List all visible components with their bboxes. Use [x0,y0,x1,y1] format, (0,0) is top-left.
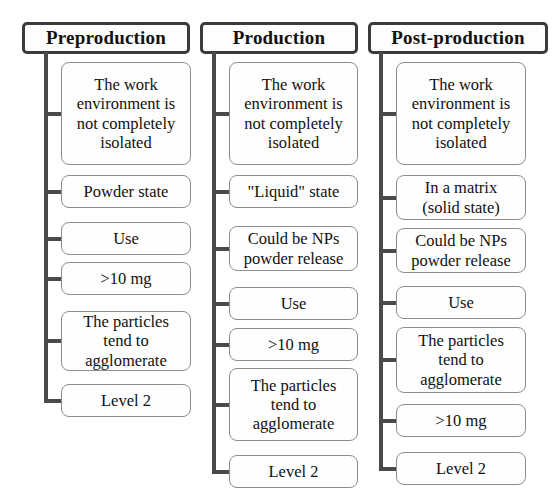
item-label-pre-work-env: The work environment is not completely i… [77,75,176,152]
item-box-prod-liquid-state[interactable]: "Liquid" state [229,175,358,208]
item-box-pre-work-env[interactable]: The work environment is not completely i… [61,62,191,165]
phase-header-preproduction[interactable]: Preproduction [22,22,190,54]
phase-header-post-production[interactable]: Post-production [368,22,548,54]
item-label-post-use: Use [448,293,474,312]
diagram-canvas: PreproductionThe work environment is not… [0,0,554,504]
item-box-prod-agglomerate[interactable]: The particles tend to agglomerate [229,368,358,441]
item-box-post-use[interactable]: Use [396,286,526,319]
connector-stub-prod-agglomerate [212,403,229,407]
item-box-post-agglomerate[interactable]: The particles tend to agglomerate [396,327,526,393]
item-label-post-nps-release: Could be NPs powder release [411,231,510,269]
item-label-prod-level: Level 2 [269,462,319,481]
item-box-pre-mass[interactable]: >10 mg [61,262,191,295]
connector-stub-post-mass [379,419,396,423]
connector-stub-prod-liquid-state [212,190,229,194]
item-label-prod-work-env: The work environment is not completely i… [244,75,343,152]
item-box-pre-use[interactable]: Use [61,222,191,255]
item-label-post-work-env: The work environment is not completely i… [412,75,511,152]
connector-stub-pre-powder-state [44,190,61,194]
phase-header-production[interactable]: Production [200,22,358,54]
item-box-prod-work-env[interactable]: The work environment is not completely i… [229,62,358,165]
item-label-pre-powder-state: Powder state [84,182,169,201]
item-label-prod-use: Use [281,294,307,313]
item-label-prod-nps-release: Could be NPs powder release [244,229,343,267]
connector-stub-post-agglomerate [379,358,396,362]
item-box-pre-agglomerate[interactable]: The particles tend to agglomerate [61,311,191,371]
item-box-post-work-env[interactable]: The work environment is not completely i… [396,62,526,165]
connector-stub-pre-mass [44,277,61,281]
item-label-post-mass: >10 mg [435,411,486,430]
connector-stub-prod-nps-release [212,247,229,251]
item-box-prod-use[interactable]: Use [229,287,358,320]
item-label-prod-mass: >10 mg [268,335,319,354]
connector-stub-pre-level [44,399,61,403]
item-box-pre-powder-state[interactable]: Powder state [61,175,191,208]
connector-stub-prod-use [212,302,229,306]
item-label-post-matrix: In a matrix (solid state) [422,178,499,216]
item-box-prod-nps-release[interactable]: Could be NPs powder release [229,226,358,271]
connector-stub-prod-level [212,470,229,474]
item-label-pre-agglomerate: The particles tend to agglomerate [83,312,169,369]
connector-stub-pre-agglomerate [44,339,61,343]
connector-stub-post-matrix [379,196,396,200]
connector-stub-prod-mass [212,343,229,347]
item-box-post-matrix[interactable]: In a matrix (solid state) [396,175,526,220]
item-label-prod-agglomerate: The particles tend to agglomerate [251,376,337,433]
connector-stub-post-use [379,301,396,305]
connector-stub-post-level [379,467,396,471]
item-box-post-mass[interactable]: >10 mg [396,404,526,437]
connector-stub-prod-work-env [212,112,229,116]
connector-trunk-preproduction [44,52,48,403]
item-box-post-nps-release[interactable]: Could be NPs powder release [396,228,526,273]
connector-stub-pre-use [44,237,61,241]
item-box-pre-level[interactable]: Level 2 [61,384,191,417]
item-box-prod-mass[interactable]: >10 mg [229,328,358,361]
connector-stub-post-nps-release [379,249,396,253]
item-label-pre-use: Use [113,229,139,248]
item-label-pre-mass: >10 mg [100,269,151,288]
connector-stub-pre-work-env [44,112,61,116]
item-box-post-level[interactable]: Level 2 [396,452,526,485]
item-label-post-level: Level 2 [436,459,486,478]
item-box-prod-level[interactable]: Level 2 [229,455,358,488]
connector-stub-post-work-env [379,112,396,116]
item-label-prod-liquid-state: "Liquid" state [248,182,340,201]
item-label-pre-level: Level 2 [101,391,151,410]
item-label-post-agglomerate: The particles tend to agglomerate [418,331,504,388]
